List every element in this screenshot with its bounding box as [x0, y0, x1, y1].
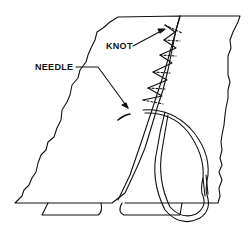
needle-label: NEEDLE	[35, 62, 73, 72]
needle-leader	[76, 67, 128, 108]
left-fabric-hem	[42, 203, 102, 215]
needle-arrowhead	[122, 103, 128, 108]
thread-loop-inner	[145, 113, 204, 216]
needle-icon	[118, 114, 130, 120]
right-fabric-piece	[125, 16, 240, 203]
thread-loop-outer	[143, 110, 208, 222]
knot-leader	[133, 30, 163, 46]
sewing-diagram-svg	[0, 0, 249, 241]
knot-label: KNOT	[106, 41, 133, 51]
